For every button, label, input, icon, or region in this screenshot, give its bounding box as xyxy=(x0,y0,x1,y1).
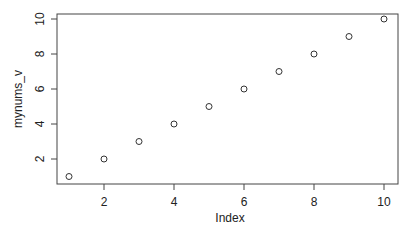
data-point xyxy=(241,86,247,92)
data-points xyxy=(66,16,387,180)
data-point xyxy=(206,104,212,110)
data-point xyxy=(136,139,142,145)
y-tick-label: 6 xyxy=(33,85,47,92)
data-point xyxy=(276,69,282,75)
y-tick-label: 10 xyxy=(33,12,47,26)
plot-frame xyxy=(57,14,398,184)
y-tick-label: 4 xyxy=(33,120,47,127)
x-axis: 246810 xyxy=(101,184,391,209)
x-tick-label: 4 xyxy=(171,195,178,209)
x-tick-label: 8 xyxy=(311,195,318,209)
y-axis: 246810 xyxy=(33,12,57,162)
x-axis-label: Index xyxy=(215,211,244,225)
x-tick-label: 6 xyxy=(241,195,248,209)
data-point xyxy=(66,174,72,180)
x-tick-label: 2 xyxy=(101,195,108,209)
y-tick-label: 2 xyxy=(33,155,47,162)
data-point xyxy=(381,16,387,22)
data-point xyxy=(311,51,317,57)
data-point xyxy=(101,156,107,162)
y-tick-label: 8 xyxy=(33,50,47,57)
data-point xyxy=(346,34,352,40)
data-point xyxy=(171,121,177,127)
scatter-plot: 246810 246810 Index mynums_v xyxy=(0,0,412,232)
x-tick-label: 10 xyxy=(377,195,391,209)
y-axis-label: mynums_v xyxy=(11,70,25,128)
